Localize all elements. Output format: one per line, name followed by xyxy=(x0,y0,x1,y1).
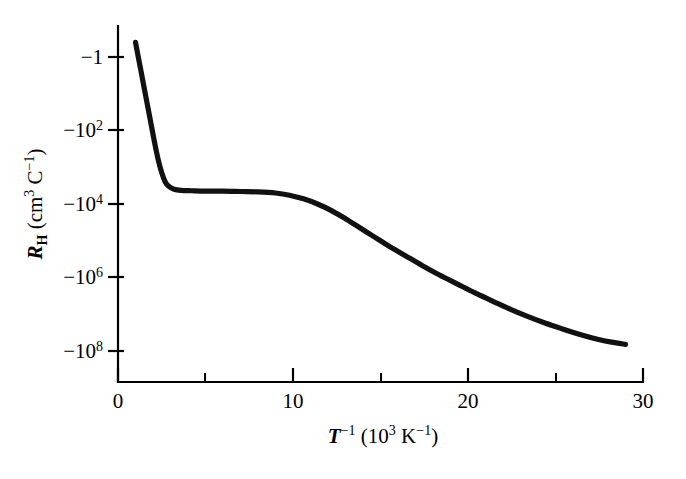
x-axis-ticks xyxy=(118,368,643,382)
figure-container: −1 −102 −104 −106 −108 0 10 20 30 T−1 xyxy=(0,0,686,479)
x-axis-title: T−1 (103 K−1) xyxy=(328,423,438,448)
x-axis-tick-labels: 0 10 20 30 xyxy=(113,389,654,413)
y-axis-tick-labels: −1 −102 −104 −106 −108 xyxy=(63,45,103,363)
y-tick-label-0: −1 xyxy=(81,45,103,69)
x-tick-label-30: 30 xyxy=(633,389,654,413)
x-tick-label-20: 20 xyxy=(458,389,479,413)
hall-coefficient-chart: −1 −102 −104 −106 −108 0 10 20 30 T−1 xyxy=(0,0,686,479)
y-tick-label-2: −104 xyxy=(63,192,103,216)
x-tick-label-10: 10 xyxy=(283,389,304,413)
y-axis-ticks xyxy=(108,57,124,351)
y-axis-title: RH (cm3 C−1) xyxy=(22,149,50,261)
hall-coefficient-curve xyxy=(136,42,626,344)
y-tick-label-4: −108 xyxy=(63,339,103,363)
y-tick-label-3: −106 xyxy=(63,265,103,289)
x-tick-label-0: 0 xyxy=(113,389,124,413)
y-tick-label-1: −102 xyxy=(63,118,103,142)
